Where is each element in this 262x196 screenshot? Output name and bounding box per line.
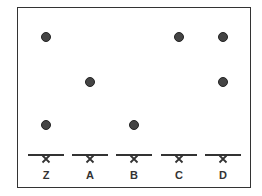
origin-cross-icon [129,150,139,160]
spot-c [174,32,184,42]
lane-label: A [86,169,94,181]
origin-cross-icon [174,150,184,160]
lane-label: C [175,169,183,181]
origin-cross-icon [85,150,95,160]
spot-d [218,77,228,87]
origin-cross-icon [41,150,51,160]
lane-label: B [130,169,138,181]
spot-z [41,32,51,42]
origin-cross-icon [218,150,228,160]
spot-b [129,120,139,130]
lane-label: D [219,169,227,181]
spot-z [41,120,51,130]
lane-label: Z [43,169,50,181]
spot-a [85,77,95,87]
spot-d [218,32,228,42]
